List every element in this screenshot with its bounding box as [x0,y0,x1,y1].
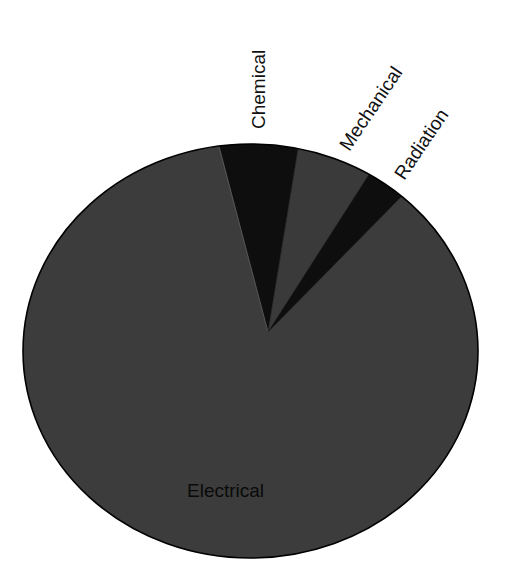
label-chemical: Chemical [249,50,268,129]
label-electrical: Electrical [187,481,264,500]
